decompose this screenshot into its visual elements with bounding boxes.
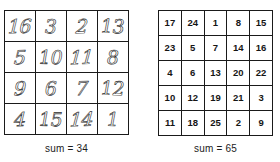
durer-cell-value: 15 — [39, 104, 63, 134]
durer-cell: 1 — [98, 104, 129, 135]
five-by-five-cell: 3 — [250, 86, 273, 111]
five-by-five-cell: 22 — [250, 61, 273, 86]
five-by-five-cell: 14 — [227, 36, 250, 61]
durer-cell: 12 — [98, 73, 129, 104]
five-by-five-cell: 24 — [181, 11, 204, 36]
durer-cell: 11 — [67, 42, 98, 73]
durer-cell-value: 2 — [75, 11, 89, 41]
five-by-five-cell: 15 — [250, 11, 273, 36]
durer-cell: 7 — [67, 73, 98, 104]
five-by-five-cell: 6 — [181, 61, 204, 86]
durer-cell: 8 — [98, 42, 129, 73]
durer-cell: 9 — [5, 73, 36, 104]
five-by-five-cell: 18 — [181, 111, 204, 136]
durer-cell-value: 10 — [39, 42, 63, 72]
five-by-five-sum-label: sum = 65 — [194, 143, 237, 154]
durer-magic-square-grid: 16321351011896712415141 — [4, 10, 129, 135]
durer-cell: 2 — [67, 11, 98, 42]
five-by-five-cell: 13 — [204, 61, 227, 86]
durer-cell-value: 3 — [45, 11, 57, 41]
five-by-five-cell: 5 — [181, 36, 204, 61]
five-by-five-row: 46132022 — [159, 61, 273, 86]
durer-cell: 6 — [36, 73, 67, 104]
magic-squares-figure: 16321351011896712415141 sum = 34 1724181… — [0, 0, 280, 162]
durer-magic-square-block: 16321351011896712415141 sum = 34 — [4, 10, 129, 154]
five-by-five-cell: 9 — [250, 111, 273, 136]
five-by-five-cell: 20 — [227, 61, 250, 86]
durer-cell: 4 — [5, 104, 36, 135]
five-by-five-cell: 19 — [204, 86, 227, 111]
durer-cell-value: 11 — [69, 42, 94, 73]
durer-cell: 5 — [5, 42, 36, 73]
five-by-five-cell: 4 — [159, 61, 182, 86]
durer-cell: 13 — [98, 11, 129, 42]
durer-cell-value: 12 — [101, 73, 125, 104]
durer-cell-value: 9 — [14, 73, 27, 103]
durer-cell-value: 8 — [107, 42, 119, 72]
durer-cell-value: 14 — [69, 104, 94, 135]
five-by-five-cell: 8 — [227, 11, 250, 36]
five-by-five-row: 101219213 — [159, 86, 273, 111]
five-by-five-cell: 25 — [204, 111, 227, 136]
durer-row: 96712 — [5, 73, 129, 104]
durer-row: 163213 — [5, 11, 129, 42]
durer-cell-value: 16 — [8, 11, 33, 42]
durer-cell-value: 7 — [75, 73, 89, 103]
durer-cell-value: 6 — [45, 73, 57, 103]
five-by-five-cell: 1 — [204, 11, 227, 36]
five-by-five-row: 23571416 — [159, 36, 273, 61]
durer-cell: 3 — [36, 11, 67, 42]
five-by-five-cell: 7 — [204, 36, 227, 61]
durer-sum-label: sum = 34 — [45, 143, 88, 154]
durer-cell-value: 1 — [107, 104, 119, 134]
five-by-five-cell: 10 — [159, 86, 182, 111]
durer-row: 415141 — [5, 104, 129, 135]
five-by-five-cell: 23 — [159, 36, 182, 61]
five-by-five-cell: 11 — [159, 111, 182, 136]
five-by-five-cell: 21 — [227, 86, 250, 111]
five-by-five-magic-square-grid: 1724181523571416461320221012192131118252… — [158, 10, 273, 136]
five-by-five-row: 11182529 — [159, 111, 273, 136]
five-by-five-cell: 12 — [181, 86, 204, 111]
five-by-five-cell: 2 — [227, 111, 250, 136]
durer-cell: 14 — [67, 104, 98, 135]
five-by-five-cell: 16 — [250, 36, 273, 61]
five-by-five-magic-square-block: 1724181523571416461320221012192131118252… — [158, 10, 273, 154]
five-by-five-row: 17241815 — [159, 11, 273, 36]
durer-cell: 15 — [36, 104, 67, 135]
durer-cell: 16 — [5, 11, 36, 42]
durer-cell: 10 — [36, 42, 67, 73]
durer-cell-value: 5 — [14, 42, 27, 72]
durer-cell-value: 4 — [14, 104, 27, 134]
durer-row: 510118 — [5, 42, 129, 73]
five-by-five-cell: 17 — [159, 11, 182, 36]
durer-cell-value: 13 — [101, 11, 125, 42]
